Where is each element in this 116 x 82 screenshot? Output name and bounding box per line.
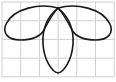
- petal-left: [5, 6, 58, 40]
- petal-curve-figure: [0, 0, 116, 82]
- petal-right: [58, 6, 111, 40]
- grid-canvas: [0, 0, 116, 82]
